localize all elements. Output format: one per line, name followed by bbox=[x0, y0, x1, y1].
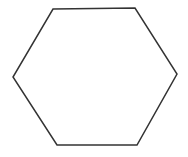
hexagon-shape bbox=[13, 8, 177, 145]
hexagon-diagram bbox=[0, 0, 188, 157]
diagram-canvas bbox=[0, 0, 188, 157]
